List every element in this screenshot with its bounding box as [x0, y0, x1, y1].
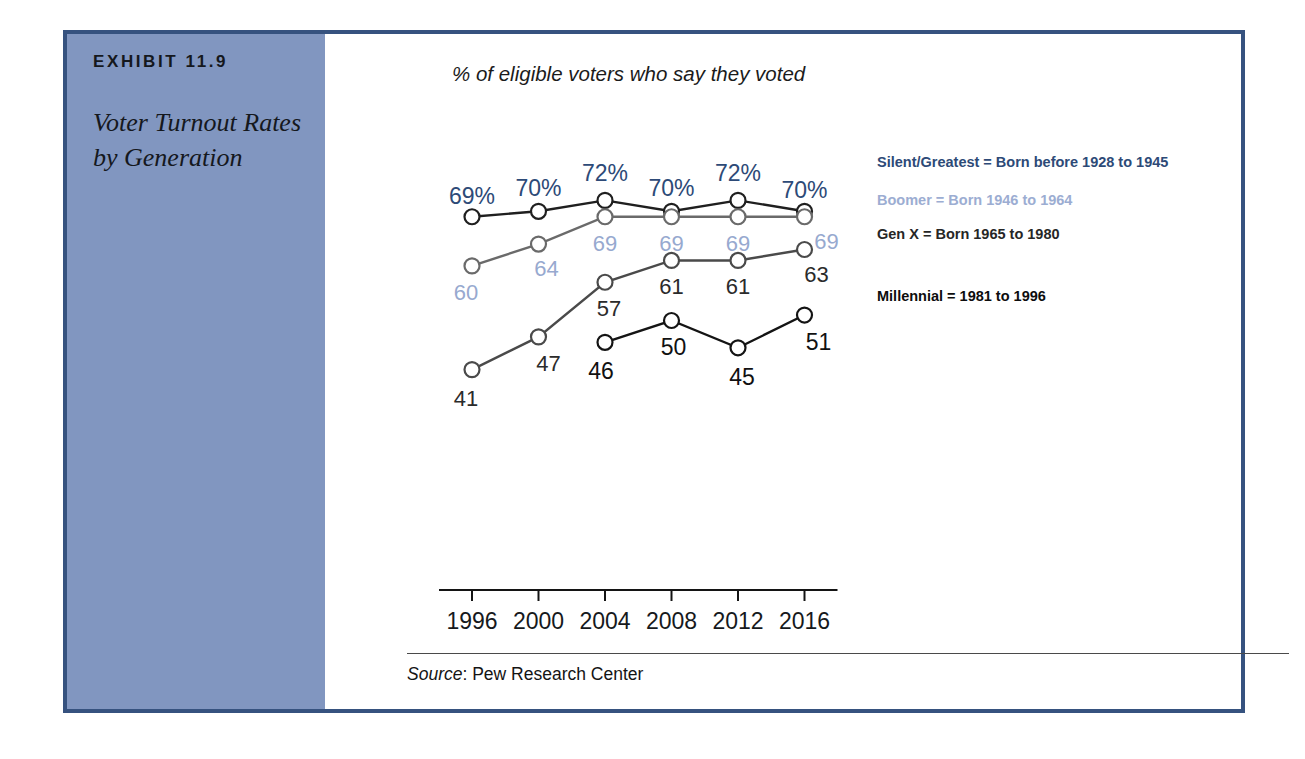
series-line-mill — [605, 315, 805, 348]
data-point-marker-boomer — [465, 258, 480, 273]
value-label-silent-2016: 70% — [781, 177, 827, 204]
chart-canvas — [325, 34, 1255, 654]
data-point-marker-silent — [465, 209, 480, 224]
value-label-boomer-2004: 69 — [593, 231, 617, 257]
data-point-marker-genx — [797, 242, 812, 257]
legend-item-boomer[interactable]: Boomer = Born 1946 to 1964 — [877, 192, 1072, 208]
value-label-silent-2012: 72% — [715, 160, 761, 187]
exhibit-frame: EXHIBIT 11.9 Voter Turnout Rates by Gene… — [63, 30, 1245, 713]
series-line-genx — [472, 250, 805, 370]
x-tick-label-2016: 2016 — [779, 608, 830, 635]
value-label-boomer-2012: 69 — [726, 231, 750, 257]
value-label-mill-2012: 45 — [729, 364, 755, 391]
x-tick-label-2012: 2012 — [712, 608, 763, 635]
source-label: Source — [407, 664, 462, 684]
exhibit-title: Voter Turnout Rates by Generation — [93, 106, 308, 175]
value-label-mill-2004: 46 — [588, 358, 614, 385]
data-point-marker-boomer — [797, 209, 812, 224]
source-value: Pew Research Center — [472, 664, 643, 684]
value-label-genx-2004: 57 — [597, 296, 621, 322]
source-separator: : — [462, 664, 472, 684]
value-label-silent-2000: 70% — [515, 175, 561, 202]
data-point-marker-boomer — [531, 237, 546, 252]
legend-item-genx[interactable]: Gen X = Born 1965 to 1980 — [877, 226, 1060, 242]
data-point-marker-genx — [465, 362, 480, 377]
value-label-silent-1996: 69% — [449, 183, 495, 210]
x-tick-label-1996: 1996 — [446, 608, 497, 635]
exhibit-number: EXHIBIT 11.9 — [93, 52, 228, 72]
data-point-marker-boomer — [598, 209, 613, 224]
chart-panel: % of eligible voters who say they voted … — [325, 34, 1241, 709]
value-label-mill-2016: 51 — [806, 329, 832, 356]
legend-item-mill[interactable]: Millennial = 1981 to 1996 — [877, 288, 1046, 304]
data-point-marker-boomer — [731, 209, 746, 224]
data-point-marker-genx — [598, 275, 613, 290]
x-tick-label-2000: 2000 — [513, 608, 564, 635]
data-point-marker-mill — [664, 313, 679, 328]
x-tick-label-2004: 2004 — [579, 608, 630, 635]
exhibit-sidebar: EXHIBIT 11.9 Voter Turnout Rates by Gene… — [67, 34, 325, 709]
line-chart-plot: 69%70%72%70%72%70%6064696969694147576161… — [325, 34, 1241, 709]
value-label-boomer-1996: 60 — [454, 280, 478, 306]
data-point-marker-silent — [731, 193, 746, 208]
x-tick-label-2008: 2008 — [646, 608, 697, 635]
value-label-genx-2012: 61 — [726, 274, 750, 300]
data-point-marker-mill — [598, 335, 613, 350]
value-label-genx-1996: 41 — [454, 386, 478, 412]
value-label-boomer-2016: 69 — [814, 229, 838, 255]
value-label-silent-2008: 70% — [648, 175, 694, 202]
data-point-marker-silent — [598, 193, 613, 208]
data-point-marker-genx — [531, 329, 546, 344]
source-divider — [407, 653, 1289, 654]
value-label-boomer-2000: 64 — [534, 256, 558, 282]
exhibit-screenshot: EXHIBIT 11.9 Voter Turnout Rates by Gene… — [0, 0, 1305, 759]
series-line-silent — [472, 200, 805, 216]
source-note: Source: Pew Research Center — [407, 664, 643, 685]
value-label-mill-2008: 50 — [661, 334, 687, 361]
data-point-marker-boomer — [664, 209, 679, 224]
value-label-genx-2000: 47 — [536, 351, 560, 377]
data-point-marker-mill — [797, 308, 812, 323]
value-label-silent-2004: 72% — [582, 160, 628, 187]
legend-item-silent[interactable]: Silent/Greatest = Born before 1928 to 19… — [877, 154, 1168, 170]
data-point-marker-mill — [731, 340, 746, 355]
value-label-boomer-2008: 69 — [659, 231, 683, 257]
data-point-marker-silent — [531, 204, 546, 219]
value-label-genx-2016: 63 — [804, 262, 828, 288]
value-label-genx-2008: 61 — [659, 274, 683, 300]
